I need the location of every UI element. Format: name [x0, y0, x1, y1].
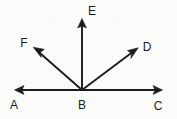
point-label-e: E: [88, 5, 96, 17]
point-label-c: C: [154, 100, 163, 112]
point-label-f: F: [20, 37, 27, 49]
point-label-d: D: [143, 41, 152, 53]
ray-ba: [15, 86, 83, 95]
ray-bd: [82, 48, 138, 90]
geometry-diagram: A B C D E F: [0, 0, 177, 119]
ray-bf: [33, 47, 82, 90]
ray-bc: [82, 86, 163, 95]
ray-bd-line: [82, 52, 132, 90]
ray-bf-line: [39, 53, 82, 91]
point-label-a: A: [10, 99, 18, 111]
ray-be: [78, 19, 87, 91]
ray-bd-arrowhead: [128, 48, 139, 59]
point-label-b: B: [78, 99, 86, 111]
